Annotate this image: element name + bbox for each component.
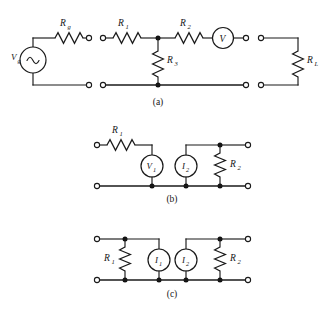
circuit-figure: R g V g R 1 xyxy=(0,0,330,318)
resistor-r1 xyxy=(113,33,141,44)
resistor-r2 xyxy=(175,33,203,44)
label-rl: R xyxy=(306,55,313,65)
label-r1-c-sub: 1 xyxy=(112,258,115,265)
source-block: R g V g xyxy=(11,18,92,88)
label-r2-c-sub: 2 xyxy=(238,258,242,265)
meter-block: V xyxy=(213,28,249,88)
label-r2-c: R xyxy=(229,253,236,263)
label-r2-a: R xyxy=(179,18,186,28)
panel-a: R g V g R 1 xyxy=(11,18,319,108)
panel-c: I 1 I 2 R 1 R 2 (c) xyxy=(94,236,250,300)
terminal-load-top-left[interactable] xyxy=(258,35,263,40)
label-r1-a-sub: 1 xyxy=(126,23,129,30)
label-r3-a-sub: 3 xyxy=(174,60,179,67)
terminal-c-bottom-left[interactable] xyxy=(94,277,99,282)
caption-b: (b) xyxy=(166,194,177,205)
label-r2-a-sub: 2 xyxy=(188,23,192,30)
label-rg-sub: g xyxy=(68,23,72,30)
terminal-b-bottom-left[interactable] xyxy=(94,183,99,188)
label-r1-c: R xyxy=(103,253,110,263)
terminal-b-bottom-right[interactable] xyxy=(245,183,250,188)
label-i1-c-sub: 1 xyxy=(159,260,162,267)
label-r1-a: R xyxy=(117,18,124,28)
caption-a: (a) xyxy=(153,97,164,108)
panel-b: V 1 I 2 R 1 R 2 (b) xyxy=(94,125,250,205)
terminal-meter-top-right[interactable] xyxy=(243,35,248,40)
label-r1-b-sub: 1 xyxy=(120,130,123,137)
terminal-b-top-left[interactable] xyxy=(94,142,99,147)
voltage-source-v1-body xyxy=(141,155,163,177)
label-rl-sub: L xyxy=(314,60,319,67)
terminal-source-bottom-right[interactable] xyxy=(86,82,91,87)
terminal-c-bottom-right[interactable] xyxy=(245,277,250,282)
resistor-r3 xyxy=(153,51,164,77)
label-r3-a: R xyxy=(166,55,173,65)
resistor-rg xyxy=(55,33,83,44)
terminal-tnet-top-left[interactable] xyxy=(100,35,105,40)
label-r2-b: R xyxy=(229,159,236,169)
c-resistor-r1 xyxy=(120,247,131,271)
caption-c: (c) xyxy=(167,289,178,300)
label-v1-sub: 1 xyxy=(153,166,156,173)
circuit-diagram-canvas: R g V g R 1 xyxy=(0,0,330,318)
terminal-meter-bottom-right[interactable] xyxy=(243,82,248,87)
terminal-load-bottom-left[interactable] xyxy=(258,82,263,87)
terminal-b-top-right[interactable] xyxy=(245,142,250,147)
load-block: R L xyxy=(258,35,318,87)
b-resistor-r1 xyxy=(107,140,135,151)
label-r2-b-sub: 2 xyxy=(238,164,242,171)
c-resistor-r2 xyxy=(215,247,226,271)
terminal-tnet-bottom-left[interactable] xyxy=(100,82,105,87)
resistor-rl xyxy=(293,51,304,77)
terminal-c-top-right[interactable] xyxy=(245,236,250,241)
terminal-source-top-right[interactable] xyxy=(86,35,91,40)
label-r1-b: R xyxy=(111,125,118,135)
label-rg: R xyxy=(59,18,66,28)
label-vg-sub: g xyxy=(18,57,21,64)
terminal-c-top-left[interactable] xyxy=(94,236,99,241)
b-resistor-r2 xyxy=(215,153,226,177)
